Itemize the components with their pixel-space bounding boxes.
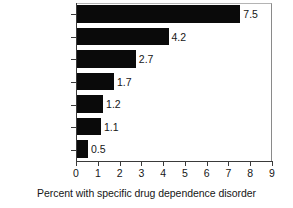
bar-value-label: 7.5 [243,3,258,26]
bar-cocaine [77,50,136,68]
y-axis-tick [71,105,76,106]
bar-value-label: 0.5 [91,138,106,161]
y-axis-tick [71,127,76,128]
bar-cannabis [77,28,169,46]
bar-chart: Any drug7.5Cannabis4.2Cocaine2.7Stimulan… [0,0,293,208]
x-axis-tick-label: 2 [110,166,130,180]
x-axis-tick-label: 4 [153,166,173,180]
x-axis-tick-label: 6 [197,166,217,180]
bar-hallucinogens [77,140,88,158]
x-axis-tick-label: 5 [175,166,195,180]
bar-value-label: 2.7 [139,48,154,71]
bar-sedatives [77,95,103,113]
y-axis-tick [71,59,76,60]
bar-opioids [77,118,101,136]
x-axis-line [76,161,273,162]
x-axis-title: Percent with specific drug dependence di… [0,186,293,200]
bar-value-label: 4.2 [172,26,187,49]
x-axis-tick-label: 8 [240,166,260,180]
x-axis-tick-label: 7 [218,166,238,180]
bar-stimulants [77,73,114,91]
y-axis-tick [71,37,76,38]
bar-any-drug [77,5,240,23]
x-axis-tick-label: 1 [88,166,108,180]
bar-value-label: 1.1 [104,116,119,139]
y-axis-tick [71,14,76,15]
bar-value-label: 1.7 [117,71,132,94]
y-axis-tick [71,82,76,83]
x-axis-tick-label: 9 [262,166,282,180]
bar-value-label: 1.2 [106,93,121,116]
x-axis-tick-label: 3 [131,166,151,180]
x-axis-tick-label: 0 [66,166,86,180]
y-axis-tick [71,150,76,151]
